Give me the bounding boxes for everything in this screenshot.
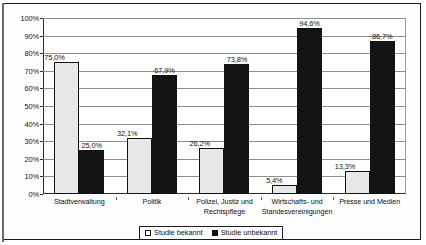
bar-value-label: 73,8% (227, 55, 247, 64)
y-axis-tick-label: 90% (25, 31, 40, 40)
x-axis-category-line: Rechtspflege (189, 207, 260, 217)
bar-group: 26,2%73,8% (188, 18, 261, 194)
legend-item[interactable]: Studie bekannt (145, 228, 203, 237)
bar-value-label: 86,7% (372, 32, 392, 41)
y-axis-tick-mark (40, 194, 43, 195)
x-axis-separator (188, 197, 189, 200)
bar-studie-unbekannt[interactable]: 67,9% (152, 75, 177, 195)
y-axis-tick-label: 20% (25, 154, 40, 163)
bar-studie-unbekannt[interactable]: 25,0% (79, 150, 104, 194)
x-axis-category-line: Standesvereinigungen (262, 207, 333, 217)
bar-group: 13,3%86,7% (333, 18, 406, 194)
y-axis-tick-label: 70% (25, 66, 40, 75)
bar-studie-unbekannt[interactable]: 86,7% (370, 41, 395, 194)
legend-label: Studie bekannt (154, 228, 203, 237)
x-axis-category-label: Presse und Medien (333, 197, 406, 223)
bar-value-label: 5,4% (266, 176, 282, 185)
x-axis-category-line: Presse und Medien (334, 197, 405, 207)
legend-label: Studie unbekannt (221, 228, 278, 237)
bar-value-label: 94,6% (299, 19, 319, 28)
x-axis-separator (261, 197, 262, 200)
x-axis-category-line: Stadtverwaltung (44, 197, 115, 207)
y-axis-tick-label: 50% (25, 102, 40, 111)
bar-value-label: 67,9% (154, 66, 174, 75)
bar-value-label: 26,2% (190, 139, 210, 148)
plot-area: 100%90%80%70%60%50%40%30%20%10%0% 75,0%2… (43, 18, 406, 194)
y-axis-tick-label: 100% (20, 14, 39, 23)
bar-value-label: 13,3% (335, 162, 355, 171)
bar-studie-unbekannt[interactable]: 94,6% (297, 28, 322, 194)
x-axis-separator (116, 197, 117, 200)
bar-studie-unbekannt[interactable]: 73,8% (224, 64, 249, 194)
y-axis-tick-label: 40% (25, 119, 40, 128)
bar-value-label: 25,0% (82, 141, 102, 150)
x-axis-category-label: Polizei, Justiz undRechtspflege (188, 197, 261, 223)
x-axis-category-line: Polizei, Justiz und (189, 197, 260, 207)
x-axis-categories: StadtverwaltungPolitikPolizei, Justiz un… (43, 197, 406, 223)
chart-frame: 100%90%80%70%60%50%40%30%20%10%0% 75,0%2… (3, 3, 421, 240)
y-axis-tick-label: 80% (25, 49, 40, 58)
y-axis-tick-label: 10% (25, 172, 40, 181)
bar-studie-bekannt[interactable]: 26,2% (199, 148, 224, 194)
bar-studie-bekannt[interactable]: 13,3% (345, 171, 370, 194)
legend-swatch-icon (145, 230, 151, 236)
legend-item[interactable]: Studie unbekannt (212, 228, 278, 237)
chart-legend: Studie bekanntStudie unbekannt (139, 226, 283, 240)
bar-group: 32,1%67,9% (116, 18, 189, 194)
y-axis-tick-label: 60% (25, 84, 40, 93)
bar-value-label: 32,1% (117, 129, 137, 138)
x-axis-category-label: Politik (116, 197, 189, 223)
bar-groups: 75,0%25,0%32,1%67,9%26,2%73,8%5,4%94,6%1… (43, 18, 406, 194)
legend-swatch-icon (212, 230, 218, 236)
bar-studie-bekannt[interactable]: 75,0% (54, 62, 79, 194)
bar-studie-bekannt[interactable]: 5,4% (272, 185, 297, 195)
bar-group: 75,0%25,0% (43, 18, 116, 194)
x-axis-category-label: Wirtschafts- undStandesvereinigungen (261, 197, 334, 223)
bar-value-label: 75,0% (44, 53, 64, 62)
x-axis-category-label: Stadtverwaltung (43, 197, 116, 223)
x-axis-category-line: Politik (117, 197, 188, 207)
bar-group: 5,4%94,6% (261, 18, 334, 194)
y-axis-tick-label: 30% (25, 137, 40, 146)
bar-studie-bekannt[interactable]: 32,1% (127, 138, 152, 194)
x-axis-category-line: Wirtschafts- und (262, 197, 333, 207)
y-axis-tick-label: 0% (29, 190, 39, 199)
x-axis-separator (333, 197, 334, 200)
